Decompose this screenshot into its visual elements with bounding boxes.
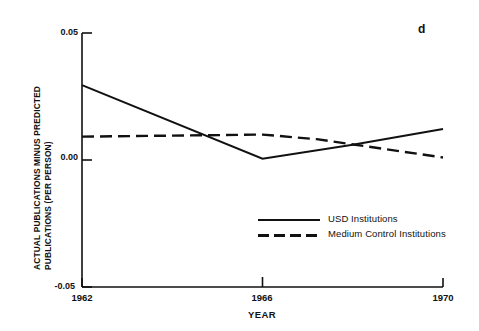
axes [82,33,443,287]
x-axis-ticks [82,277,443,287]
series-line-usd-institutions [82,85,443,159]
data-series [82,85,443,159]
plot-area [0,0,479,331]
y-axis-ticks [82,33,92,287]
figure-panel-d: d ACTUAL PUBLICATIONS MINUS PREDICTED PU… [0,0,479,331]
